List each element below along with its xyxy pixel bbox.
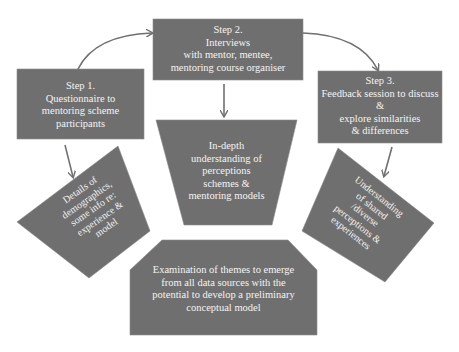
outcome2-line: In-depth [156, 140, 297, 153]
synthesis-line: conceptual model [130, 302, 317, 315]
step2-line: Interviews [153, 37, 303, 50]
step1-line: Questionnaire to [17, 93, 144, 106]
arrow-step1-to-outcome1 [65, 145, 73, 177]
outcome2-line: schemes & [156, 178, 297, 191]
step3-label: Step 3. Feedback session to discuss & ex… [318, 75, 442, 138]
step3-title: Step 3. [318, 75, 442, 88]
outcome2-line: mentoring models [156, 190, 297, 203]
outcome2-line: perceptions [156, 165, 297, 178]
arrow-step2-to-step3 [303, 33, 378, 70]
arrow-step1-to-step2 [78, 33, 152, 69]
step1-line: mentoring scheme [17, 105, 144, 118]
synthesis-line: potential to develop a preliminary [130, 289, 317, 302]
arrow-step3-to-outcome3 [384, 147, 392, 176]
step2-label: Step 2. Interviews with mentor, mentee, … [153, 24, 303, 74]
step2-line: with mentor, mentee, [153, 49, 303, 62]
step3-line: Feedback session to discuss [318, 88, 442, 101]
synthesis-line: Examination of themes to emerge [130, 264, 317, 277]
step1-line: participants [17, 118, 144, 131]
synthesis-label: Examination of themes to emerge from all… [130, 264, 317, 314]
step3-line: & differences [318, 125, 442, 138]
synthesis-line: from all data sources with the [130, 277, 317, 290]
step2-title: Step 2. [153, 24, 303, 37]
outcome2-line: understanding of [156, 153, 297, 166]
step2-line: mentoring course organiser [153, 62, 303, 75]
step1-title: Step 1. [17, 80, 144, 93]
outcome2-label: In-depth understanding of perceptions sc… [156, 140, 297, 203]
step3-line: & [318, 100, 442, 113]
step3-line: explore similarities [318, 113, 442, 126]
step1-label: Step 1. Questionnaire to mentoring schem… [17, 80, 144, 130]
